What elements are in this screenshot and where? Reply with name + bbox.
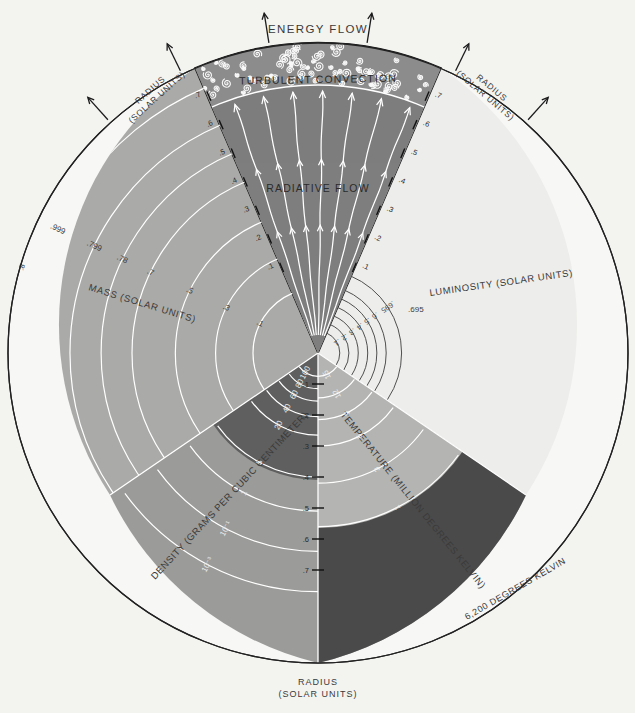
svg-text:.3: .3	[303, 442, 309, 451]
energy-flow-label: ENERGY FLOW	[268, 23, 368, 35]
svg-text:.4: .4	[303, 473, 309, 482]
radiative-flow-label: RADIATIVE FLOW	[266, 182, 369, 194]
svg-text:.7: .7	[303, 566, 309, 575]
svg-text:.5: .5	[303, 504, 309, 513]
svg-text:RADIUS: RADIUS	[298, 677, 338, 687]
radius-label-bottom: RADIUS (SOLAR UNITS)	[278, 677, 357, 699]
solar-diagram-svg: .7.6.5.4.3.2.1 .7.6.5.4.3.2.1 .1.2.3.4.5…	[0, 0, 635, 713]
solar-structure-figure: .7.6.5.4.3.2.1 .7.6.5.4.3.2.1 .1.2.3.4.5…	[0, 0, 635, 713]
svg-text:(SOLAR UNITS): (SOLAR UNITS)	[278, 689, 357, 699]
svg-text:.6: .6	[303, 535, 309, 544]
svg-text:.695: .695	[408, 305, 424, 314]
